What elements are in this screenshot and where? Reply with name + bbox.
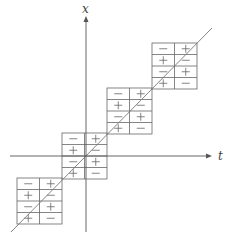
sign-grid — [17, 178, 62, 224]
plus-sign — [92, 158, 100, 166]
plus-sign — [114, 101, 122, 109]
t-axis-arrow-icon — [206, 154, 212, 159]
plus-sign — [137, 90, 145, 98]
plus-sign — [137, 113, 145, 121]
plus-sign — [69, 169, 77, 177]
diagram-canvas: x t — [0, 0, 236, 244]
plus-sign — [92, 135, 100, 143]
plus-sign — [47, 180, 55, 188]
plus-sign — [69, 146, 77, 154]
plus-sign — [24, 214, 32, 222]
plus-sign — [47, 203, 55, 211]
x-axis-label: x — [82, 2, 89, 16]
plus-sign — [182, 68, 190, 76]
plus-sign — [24, 191, 32, 199]
diagonal-line — [11, 28, 212, 232]
t-axis-label: t — [218, 149, 223, 163]
x-axis-arrow-icon — [84, 16, 89, 22]
plus-sign — [159, 56, 167, 64]
